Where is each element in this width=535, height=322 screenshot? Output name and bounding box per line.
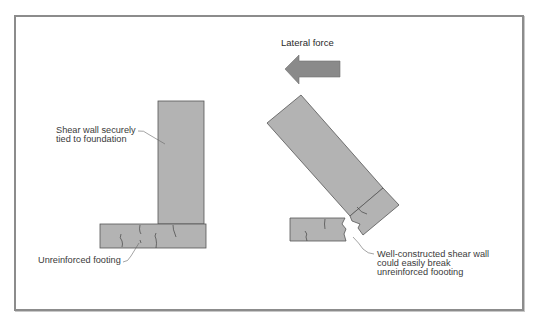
footing-unreinforced (100, 224, 206, 248)
footing-label: Unreinforced footing (38, 255, 121, 265)
shear-wall-upright (158, 101, 204, 224)
break-label-line3: unreinforced foooting (377, 267, 463, 277)
shear-wall-tilted (267, 95, 383, 216)
footing-remaining (290, 218, 346, 241)
shear-wall-label-line2: tied to foundation (56, 134, 127, 144)
right-scene: Well-constructed shear wall could easily… (267, 95, 489, 277)
diagram-canvas: Lateral force Shear wall securely tied t… (0, 0, 535, 322)
left-arrow-icon (285, 55, 340, 84)
lateral-force-title: Lateral force (281, 37, 334, 48)
left-scene: Shear wall securely tied to foundation U… (38, 101, 206, 265)
break-leader (353, 237, 374, 254)
